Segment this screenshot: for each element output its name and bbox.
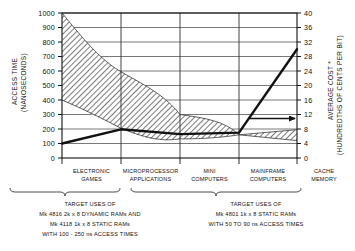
right-axis-title-line2: (HUNDREDTHS OF CENTS PER BIT) [336, 35, 344, 155]
left-tick-label: 600 [42, 67, 55, 76]
right-tick-label: 8 [304, 125, 308, 134]
caption-line: TARGET USES OF [230, 201, 281, 207]
caption-line: Mk 4816 2k x 8 DYNAMIC RAMs AND [39, 211, 140, 217]
category-label: APPLICATIONS [130, 176, 172, 182]
category-label: CACHE [314, 168, 334, 174]
right-tick-label: 12 [304, 110, 312, 119]
caption-line: Mk 4118 1k x 8 STATIC RAMs [50, 221, 130, 227]
right-tick-label: 16 [304, 96, 312, 105]
left-tick-label: 200 [42, 125, 55, 134]
left-tick-label: 500 [42, 81, 55, 90]
right-tick-label: 40 [304, 9, 312, 18]
caption-line: TARGET USES OF [64, 201, 115, 207]
left-tick-label: 900 [42, 23, 55, 32]
left-axis-title-line1: ACCESS TIME [11, 58, 18, 105]
category-label: MAINFRAME [251, 168, 286, 174]
caption-line: Mk 4801 1k x 8 STATIC RAMs [216, 211, 297, 217]
chart-figure: 1000 900 800 700 600 500 400 300 200 100… [0, 0, 355, 251]
category-label: MICROPROCESSOR [123, 168, 179, 174]
right-tick-label: 36 [304, 23, 312, 32]
category-label: MINI [203, 168, 216, 174]
left-tick-label: 300 [42, 110, 55, 119]
category-label: GAMES [81, 176, 102, 182]
right-tick-label: 28 [304, 52, 312, 61]
left-tick-label: 0 [51, 154, 55, 163]
category-label: MEMORY [311, 176, 337, 182]
category-label: COMPUTERS [250, 176, 287, 182]
right-axis-title-line1: AVERAGE COST * [327, 61, 334, 120]
right-tick-label: 0 [304, 154, 308, 163]
left-tick-label: 400 [42, 96, 55, 105]
right-tick-label: 4 [304, 139, 308, 148]
right-tick-label: 20 [304, 81, 312, 90]
right-tick-label: 24 [304, 67, 312, 76]
left-axis-title-line2: (NANOSECONDS) [20, 53, 28, 112]
left-tick-label: 100 [42, 139, 55, 148]
caption-line: WITH 50 TO 90 ns ACCESS TIMES [208, 221, 303, 227]
left-tick-label: 700 [42, 52, 55, 61]
left-tick-label: 1000 [38, 9, 55, 18]
caption-line: WITH 100 - 250 ns ACCESS TIMES [42, 231, 138, 237]
left-tick-label: 800 [42, 38, 55, 47]
right-tick-label: 32 [304, 38, 312, 47]
category-label: ELECTRONIC [73, 168, 110, 174]
chart-svg: 1000 900 800 700 600 500 400 300 200 100… [0, 0, 355, 251]
category-label: COMPUTERS [191, 176, 228, 182]
left-axis-title: ACCESS TIME (NANOSECONDS) [11, 53, 28, 112]
